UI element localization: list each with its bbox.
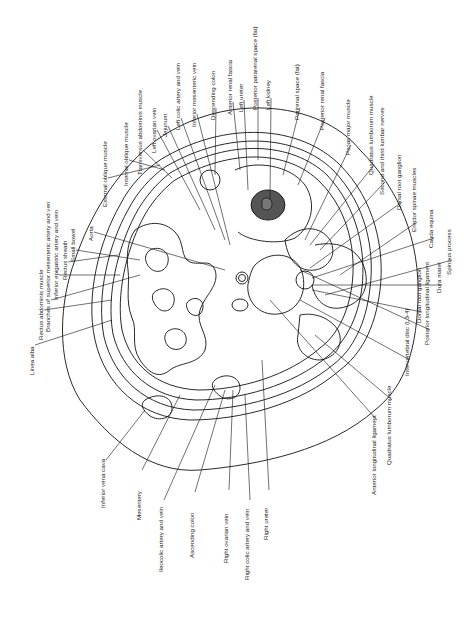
label-dorsal-root-ganglion-top: Dorsal root ganglion	[396, 155, 402, 210]
label-cauda-equina: Cauda equina	[428, 209, 434, 248]
quadratus-lumborum	[297, 314, 340, 360]
label-spinous-process: Spinous process	[446, 229, 452, 275]
label-dorsal-root-ganglion-bottom: Dorsal root ganglion	[416, 268, 422, 323]
label-right-ureter: Right ureter	[263, 508, 269, 540]
label-anterior-longitudinal: Anterior longitudinal ligament	[371, 415, 377, 495]
label-erector-spinae: Erector spinae muscles	[411, 168, 417, 232]
label-left-colic: Left colic artery and vein	[175, 63, 181, 130]
label-inferior-vena-cava: Inferior vena cava	[100, 459, 106, 508]
label-branches-sma: Branches of superior mesenteric artery a…	[45, 202, 51, 332]
spinal-canal	[296, 271, 314, 289]
label-external-oblique: External oblique muscle	[102, 141, 108, 207]
label-intervertebral-disc: Intervertebral disc (L3-4)	[404, 309, 410, 376]
label-inferior-epigastric: Inferior epigastric artery and vein	[53, 210, 59, 300]
label-psoas-major: Psoas major muscle	[345, 99, 351, 155]
label-second-third-lumbar-nerves: Second and third lumbar nerves	[379, 107, 385, 195]
aorta-shape	[236, 272, 248, 284]
label-transversus-abdominis: Transversus abdominis muscle	[137, 90, 143, 175]
bowel-loops	[127, 223, 216, 374]
label-ileocolic: Ileocolic artery and vein	[158, 507, 164, 572]
label-right-ovarian-vein: Right ovarian vein	[223, 513, 229, 563]
cross-section-drawing	[0, 0, 472, 620]
label-left-ureter: Left ureter	[238, 84, 244, 112]
label-right-colic: Right colic artery and vein	[244, 509, 250, 580]
label-aorta: Aorta	[88, 226, 94, 241]
label-inferior-mesenteric-vein: Inferior mesenteric vein	[191, 63, 197, 127]
peritoneum	[120, 157, 353, 390]
label-mesentery: Mesentery	[136, 491, 142, 520]
label-small-bowel: Small bowel	[70, 229, 76, 262]
descending-colon-shape	[200, 170, 220, 190]
label-quadratus-lumborum-top: Quadratus lumborum muscle	[368, 96, 374, 175]
label-descending-colon: Descending colon	[210, 71, 216, 120]
psoas-muscle	[285, 229, 333, 271]
label-jejunum: Jejunum	[162, 114, 168, 137]
ivc-shape	[232, 299, 248, 311]
erector-spinae	[312, 244, 366, 309]
label-left-kidney: Left kidney	[265, 80, 271, 110]
label-linea-alba: Linea alba	[29, 346, 35, 375]
label-internal-oblique: Internal oblique muscle	[123, 122, 129, 186]
label-posterior-renal-fascia: Posterior renal fascia	[319, 72, 325, 130]
label-posterior-pararenal: Posterior pararenal space (fat)	[252, 26, 258, 110]
label-posterior-longitudinal: Posterior longitudinal ligament	[424, 262, 430, 345]
label-anterior-renal-fascia: Anterior renal fascia	[227, 60, 233, 115]
label-rectus-sheath: Rectus sheath	[62, 240, 68, 280]
ascending-colon-shape	[212, 376, 240, 399]
label-perirenal-space: Perirenal space (fat)	[294, 64, 300, 120]
label-quadratus-lumborum-bottom: Quadratus lumborum muscle	[386, 386, 392, 465]
label-dura-mater: Dura mater	[436, 262, 442, 293]
label-left-ovarian-vein: Left ovarian vein	[151, 108, 157, 153]
label-ascending-colon: Ascending colon	[189, 513, 195, 558]
